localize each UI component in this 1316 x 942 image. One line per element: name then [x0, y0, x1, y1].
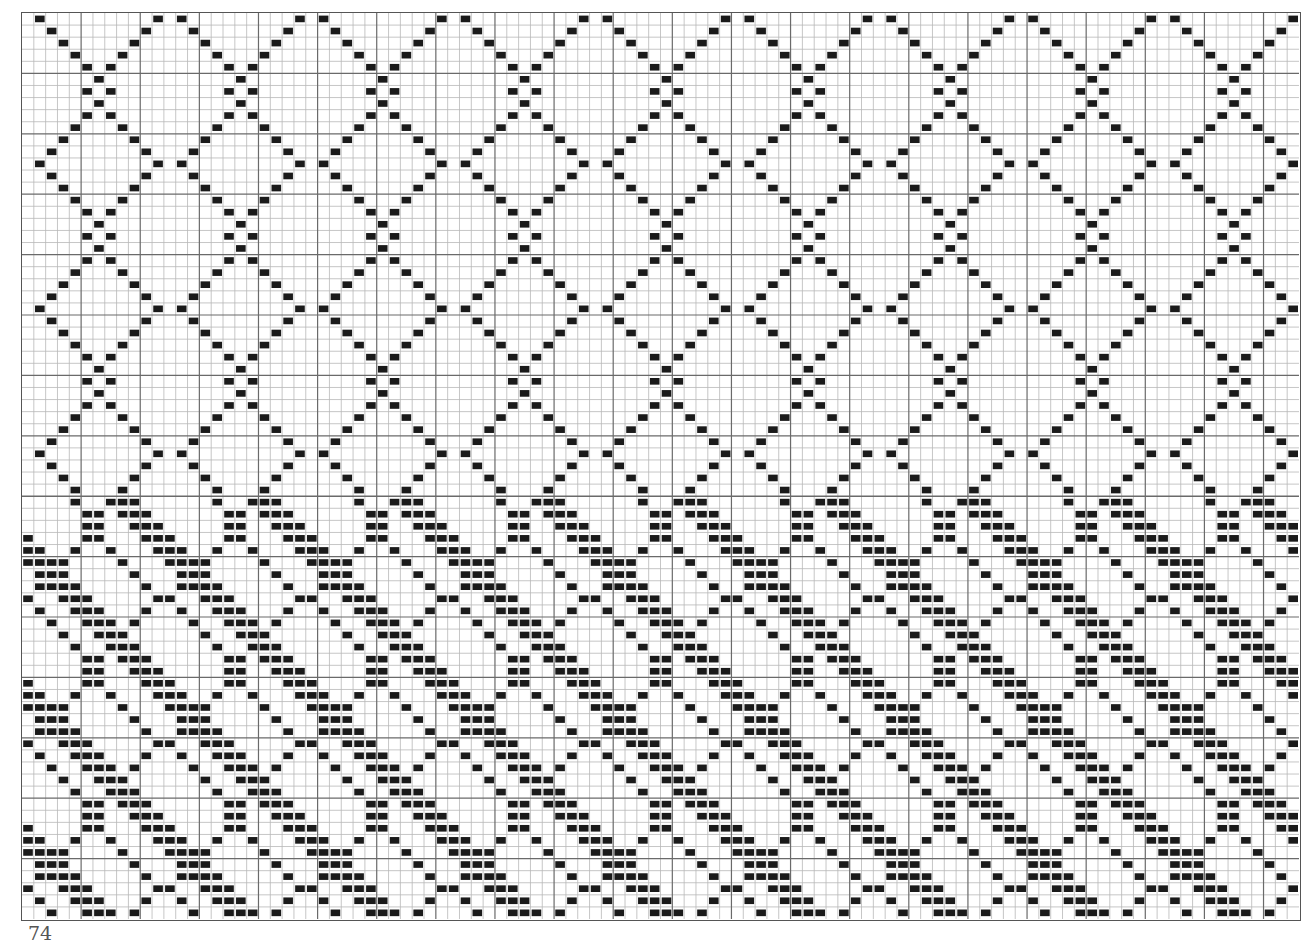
weaving-draft-grid — [21, 12, 1301, 921]
draft-grid-canvas — [22, 13, 1299, 919]
page-number: 74 — [28, 922, 52, 942]
